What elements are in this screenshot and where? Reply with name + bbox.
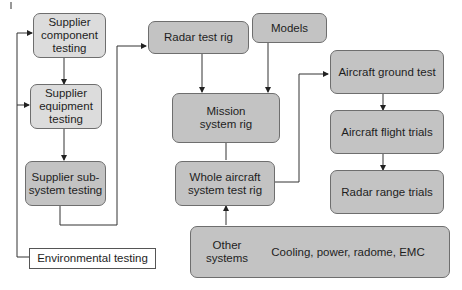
node-label: Aircraft ground test	[338, 66, 435, 79]
node-models: Models	[252, 13, 327, 43]
node-environmental-testing: Environmental testing	[29, 248, 156, 269]
node-supplier-component-testing: Supplier component testing	[33, 13, 106, 58]
node-label: Supplier component testing	[34, 16, 105, 55]
node-supplier-subsystem-testing: Supplier sub-system testing	[25, 161, 106, 206]
node-label: Radar test rig	[164, 31, 233, 44]
node-label: Supplier sub-system testing	[26, 171, 105, 197]
node-label: Supplier equipment testing	[31, 87, 101, 126]
node-radar-test-rig: Radar test rig	[148, 21, 249, 54]
node-aircraft-ground-test: Aircraft ground test	[330, 50, 444, 94]
node-other-systems: Other systems Cooling, power, radome, EM…	[190, 226, 450, 278]
node-aircraft-flight-trials: Aircraft flight trials	[330, 110, 444, 154]
node-label: Models	[271, 22, 308, 35]
node-label: Radar range trials	[341, 186, 432, 199]
node-label: Whole aircraft system test rig	[176, 171, 274, 197]
node-label: Environmental testing	[37, 252, 148, 265]
node-supplier-equipment-testing: Supplier equipment testing	[30, 84, 102, 129]
node-mission-system-rig: Mission system rig	[172, 93, 280, 143]
node-radar-range-trials: Radar range trials	[330, 170, 444, 214]
node-label: Aircraft flight trials	[341, 126, 432, 139]
other-systems-label: Other systems	[191, 239, 257, 265]
node-whole-aircraft-system-test-rig: Whole aircraft system test rig	[175, 161, 275, 206]
node-label: Mission system rig	[173, 105, 279, 131]
other-systems-detail: Cooling, power, radome, EMC	[257, 246, 449, 259]
